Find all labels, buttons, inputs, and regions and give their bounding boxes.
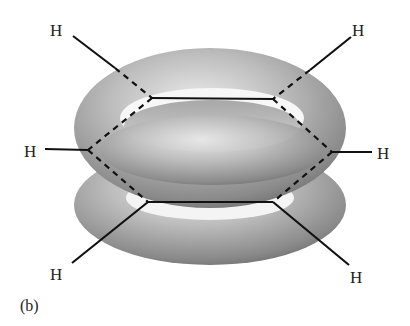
bond-top: [152, 98, 273, 99]
hydrogen-label-top-left: H: [50, 22, 62, 39]
hydrogen-label-bottom-left: H: [50, 266, 62, 283]
hydrogen-label-bottom-right: H: [350, 269, 362, 286]
hydrogen-label-left: H: [24, 143, 36, 160]
hydrogen-label-right: H: [377, 145, 389, 162]
panel-label: (b): [20, 298, 39, 314]
hydrogen-label-top-right: H: [352, 22, 364, 39]
